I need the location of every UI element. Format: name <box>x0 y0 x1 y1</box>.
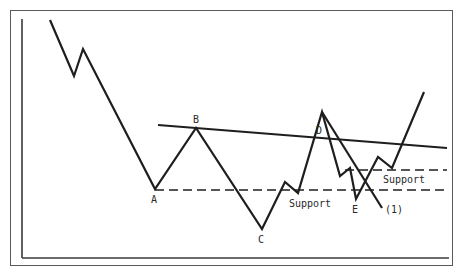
label-line-1: (1) <box>385 204 403 215</box>
line-1 <box>322 112 382 208</box>
label-a: A <box>151 194 157 205</box>
label-support-1: Support <box>289 198 331 209</box>
label-e: E <box>352 204 358 215</box>
pattern-diagram: A B C D E Support Support (1) <box>0 0 466 277</box>
label-support-2: Support <box>383 174 425 185</box>
label-d: D <box>316 125 322 136</box>
label-c: C <box>258 234 264 245</box>
price-path <box>50 20 424 229</box>
label-b: B <box>193 114 199 125</box>
